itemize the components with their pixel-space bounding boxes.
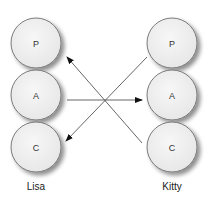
kitty-parent-label: P — [169, 39, 175, 49]
kitty-adult-label: A — [169, 91, 175, 101]
lisa-parent-label: P — [33, 39, 39, 49]
kitty-parent-node: P — [147, 18, 197, 68]
lisa-adult-label: A — [33, 91, 39, 101]
kitty-caption: Kitty — [162, 181, 181, 192]
lisa-ego-states: P A C — [11, 18, 61, 172]
lisa-parent-node: P — [11, 18, 61, 68]
lisa-child-node: C — [11, 122, 61, 172]
transaction-arrows — [66, 57, 147, 143]
lisa-caption: Lisa — [27, 181, 46, 192]
kitty-child-label: C — [169, 143, 176, 153]
kitty-child-node: C — [147, 122, 197, 172]
kitty-adult-node: A — [147, 70, 197, 120]
transaction-diagram: P A C P A C Lisa Ki — [0, 0, 211, 200]
lisa-child-label: C — [33, 143, 40, 153]
lisa-adult-node: A — [11, 70, 61, 120]
kitty-ego-states: P A C — [147, 18, 197, 172]
